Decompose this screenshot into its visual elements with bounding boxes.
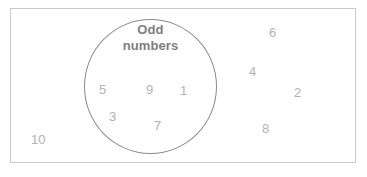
- number-8: 8: [262, 122, 269, 136]
- odd-numbers-circle-label: Odd numbers: [84, 22, 217, 54]
- number-3: 3: [109, 110, 116, 124]
- number-6: 6: [269, 26, 276, 40]
- circle-label-line-2: numbers: [84, 38, 217, 54]
- circle-label-line-1: Odd: [84, 22, 217, 38]
- number-5: 5: [99, 83, 106, 97]
- number-1: 1: [180, 84, 187, 98]
- venn-diagram: Odd numbers 59137 642810: [0, 0, 367, 177]
- number-9: 9: [146, 83, 153, 97]
- number-4: 4: [249, 65, 256, 79]
- number-2: 2: [294, 86, 301, 100]
- number-10: 10: [31, 133, 45, 147]
- number-7: 7: [154, 119, 161, 133]
